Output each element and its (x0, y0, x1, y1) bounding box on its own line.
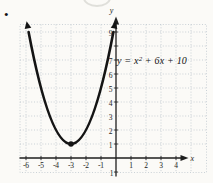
axes (20, 17, 189, 177)
y-tick-label: 4 (109, 99, 113, 108)
x-tick-label: -2 (83, 161, 89, 170)
x-tick-labels: -6 -5 -4 -3 -2 -1 1 2 3 4 (23, 161, 178, 170)
x-tick-label: 3 (159, 161, 163, 170)
x-axis-label: x (190, 154, 195, 163)
textbook-figure: • (0, 0, 213, 183)
x-tick-label: 2 (144, 161, 148, 170)
y-tick-label: 6 (109, 71, 113, 80)
equation-lhs: y = x (117, 55, 139, 66)
x-tick-label: -1 (98, 161, 104, 170)
y-tick-label: 9 (109, 29, 113, 38)
equation-rhs: + 6x + 10 (142, 55, 187, 66)
x-tick-label: -4 (53, 161, 59, 170)
equation-label: y = x2 + 6x + 10 (117, 55, 187, 68)
equation-exponent: 2 (139, 55, 143, 63)
vertex-point (68, 141, 74, 147)
x-tick-label: -3 (68, 161, 74, 170)
y-axis-label: y (109, 6, 114, 15)
x-tick-label: 1 (129, 161, 133, 170)
x-tick-label: -6 (23, 161, 29, 170)
y-tick-label: 5 (109, 85, 113, 94)
x-tick-label: 4 (174, 161, 178, 170)
y-tick-label: 3 (109, 113, 113, 122)
x-tick-label: -5 (38, 161, 44, 170)
y-axis-arrow-icon (113, 17, 119, 25)
grid-border (20, 25, 207, 173)
y-below-axis-label: 1 (110, 169, 114, 178)
curve-left-arrow-icon (25, 21, 32, 29)
x-axis-arrow-icon (181, 155, 189, 161)
parabola-graph: -6 -5 -4 -3 -2 -1 1 2 3 4 9 7 6 5 4 3 2 … (0, 0, 213, 183)
y-tick-label: 7 (109, 57, 113, 66)
y-tick-label: 1 (109, 141, 113, 150)
grid (20, 25, 207, 173)
y-tick-label: 2 (109, 127, 113, 136)
